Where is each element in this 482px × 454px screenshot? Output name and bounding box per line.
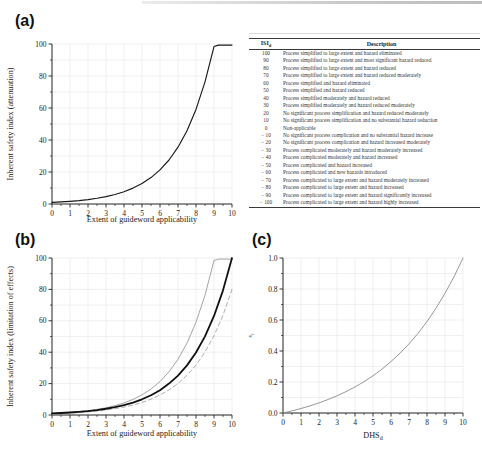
table-row: 10No significant process simplification … — [249, 117, 480, 124]
table-row: 70Process simplified to large extent and… — [249, 72, 480, 79]
table-row: 90Process simplified to large extent and… — [249, 57, 480, 64]
y-axis-title: sf — [247, 333, 255, 337]
svg-text:5: 5 — [371, 418, 375, 427]
isi-value: 20 — [249, 110, 283, 117]
isi-value: 70 — [249, 72, 283, 79]
svg-text:80: 80 — [39, 285, 47, 294]
isi-description: Process simplified to large extent and h… — [283, 72, 480, 79]
isi-value: 50 — [249, 87, 283, 94]
svg-text:5: 5 — [140, 420, 144, 429]
svg-text:0: 0 — [281, 418, 285, 427]
svg-text:60: 60 — [39, 104, 47, 113]
svg-text:100: 100 — [35, 40, 47, 49]
svg-text:10: 10 — [228, 420, 236, 429]
isi-description: Process simplified to large extent and m… — [283, 57, 480, 64]
svg-text:10: 10 — [228, 209, 236, 218]
table-row: 0Non-applicable — [249, 125, 480, 132]
svg-text:10: 10 — [459, 418, 467, 427]
y-axis-title: Inherent safety index (attenuation) — [6, 67, 15, 180]
svg-text:40: 40 — [39, 136, 47, 145]
table-row: − 80Process complicated to large extent … — [249, 184, 480, 191]
svg-text:0.0: 0.0 — [268, 409, 278, 418]
svg-text:1.0: 1.0 — [268, 254, 278, 263]
svg-text:0.2: 0.2 — [268, 378, 278, 387]
isi-value: − 100 — [249, 199, 283, 207]
svg-text:1: 1 — [68, 209, 72, 218]
isi-value: 30 — [249, 102, 283, 109]
table-outer-top-rule — [249, 33, 480, 34]
svg-text:1: 1 — [68, 420, 72, 429]
svg-text:4: 4 — [122, 420, 126, 429]
table-row: − 20No significant process complication … — [249, 139, 480, 146]
svg-text:8: 8 — [425, 418, 429, 427]
svg-text:20: 20 — [39, 379, 47, 388]
isi-description: Process complicated moderately and hazar… — [283, 147, 480, 154]
isi-description: Process simplified to large extent and h… — [283, 50, 480, 58]
isi-description: No significant process complication and … — [283, 139, 480, 146]
svg-text:9: 9 — [212, 420, 216, 429]
svg-text:0.6: 0.6 — [268, 316, 278, 325]
table-row: 20No significant process simplification … — [249, 110, 480, 117]
table-row: 30Process simplified moderately and haza… — [249, 102, 480, 109]
svg-text:0.8: 0.8 — [268, 285, 278, 294]
isi-description: Process complicated to large extent and … — [283, 192, 480, 199]
isi-value: − 40 — [249, 154, 283, 161]
isi-value: 80 — [249, 65, 283, 72]
isi-description: Process simplified moderately and hazard… — [283, 95, 480, 102]
svg-text:0: 0 — [43, 200, 47, 209]
svg-text:20: 20 — [39, 168, 47, 177]
table-row: 100Process simplified to large extent an… — [249, 50, 480, 58]
isi-value: − 80 — [249, 184, 283, 191]
description-header: Description — [283, 39, 480, 50]
isi-value: − 70 — [249, 177, 283, 184]
isi-description: Process complicated and hazard increased — [283, 162, 480, 169]
svg-text:9: 9 — [212, 209, 216, 218]
isi-value: 40 — [249, 95, 283, 102]
isi-description: No significant process complication and … — [283, 132, 480, 139]
table-row: 50Process simplified and hazard reduced — [249, 87, 480, 94]
page-top-rule — [142, 1, 482, 4]
table-row: − 60Process complicated and new hazards … — [249, 169, 480, 176]
svg-text:3: 3 — [335, 418, 339, 427]
y-axis-title: Inherent safety index (limitation of eff… — [6, 266, 15, 407]
isi-d-header: ISId — [249, 39, 283, 50]
x-axis-title: DHSd — [363, 431, 382, 441]
svg-text:2: 2 — [86, 420, 90, 429]
panel-label-a: (a) — [15, 12, 35, 30]
isi-description: Process complicated to large extent and … — [283, 199, 480, 207]
svg-text:6: 6 — [389, 418, 393, 427]
isi-value: − 90 — [249, 192, 283, 199]
isi-value: 10 — [249, 117, 283, 124]
chart-limitation-of-effects: 012345678910020406080100Extent of guidew… — [0, 246, 246, 452]
x-axis-title: Extent of guideword applicability — [87, 215, 198, 224]
svg-text:0: 0 — [50, 420, 54, 429]
table-row: − 100Process complicated to large extent… — [249, 199, 480, 207]
isi-table-body: 100Process simplified to large extent an… — [249, 50, 480, 208]
table-row: − 30Process complicated moderately and h… — [249, 147, 480, 154]
svg-text:0: 0 — [43, 411, 47, 420]
table-row: − 40Process complicated moderately and h… — [249, 154, 480, 161]
isi-description: No significant process simplification an… — [283, 110, 480, 117]
svg-text:40: 40 — [39, 348, 47, 357]
chart-attenuation: 012345678910020406080100Extent of guidew… — [0, 32, 246, 234]
svg-text:7: 7 — [407, 418, 411, 427]
isi-value: 100 — [249, 50, 283, 58]
table-row: 80Process simplified to large extent and… — [249, 65, 480, 72]
chart-sf-vs-dhsd: 0123456789100.00.20.40.60.81.0DHSdsf — [246, 246, 482, 452]
svg-text:2: 2 — [317, 418, 321, 427]
svg-text:8: 8 — [194, 420, 198, 429]
isi-description: Process complicated to large extent and … — [283, 184, 480, 191]
svg-text:100: 100 — [35, 254, 47, 263]
isi-description: Non-applicable — [283, 125, 480, 132]
isi-value: 90 — [249, 57, 283, 64]
table-row: 40Process simplified moderately and haza… — [249, 95, 480, 102]
svg-text:7: 7 — [176, 420, 180, 429]
isi-value: 60 — [249, 80, 283, 87]
isi-value: − 20 — [249, 139, 283, 146]
svg-text:1: 1 — [299, 418, 303, 427]
isi-value: − 10 — [249, 132, 283, 139]
svg-text:60: 60 — [39, 316, 47, 325]
table-row: − 10No significant process complication … — [249, 132, 480, 139]
isi-description: Process complicated moderately and hazar… — [283, 154, 480, 161]
svg-text:6: 6 — [158, 420, 162, 429]
